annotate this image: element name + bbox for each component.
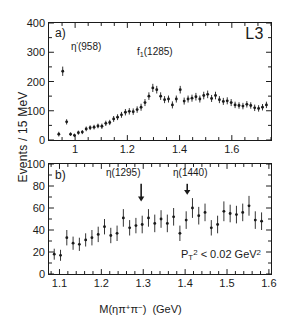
x-tick-label: 1.4 — [160, 143, 200, 155]
y-tick-label: 0 — [3, 134, 45, 146]
data-series — [57, 67, 268, 137]
x-axis-title: M(ηπ+π−) (GeV) — [0, 303, 281, 315]
panel-b-low-pt-sample: b) η(1295) η(1440) PT2 < 0.02 GeV2 02040… — [48, 163, 272, 275]
x-tick-label: 1.2 — [81, 277, 121, 289]
y-tick-label: 100 — [3, 158, 45, 170]
y-tick-label: 80 — [3, 180, 45, 192]
y-tick-label: 60 — [3, 202, 45, 214]
x-tick-label: 1.1 — [39, 277, 79, 289]
x-tick-label: 1.2 — [107, 143, 147, 155]
annotation-arrow-icon — [184, 184, 190, 195]
y-tick-label: 100 — [3, 105, 45, 117]
y-tick-label: 40 — [3, 224, 45, 236]
x-tick-label: 1.6 — [249, 277, 281, 289]
y-tick-label: 300 — [3, 46, 45, 58]
y-tick-label: 200 — [3, 76, 45, 88]
panel-a-full-sample: a) L3 η′(958) f1(1285) 010020030040011.2… — [48, 22, 272, 141]
annotation-arrow-icon — [138, 184, 144, 202]
panel-b-plot-area — [49, 164, 271, 274]
panel-a-plot-area — [49, 23, 271, 140]
x-tick-label: 1 — [55, 143, 95, 155]
y-tick-label: 400 — [3, 17, 45, 29]
data-series — [53, 196, 263, 261]
x-tick-label: 1.4 — [165, 277, 205, 289]
x-tick-label: 1.6 — [212, 143, 252, 155]
x-tick-label: 1.3 — [123, 277, 163, 289]
y-tick-label: 20 — [3, 246, 45, 258]
x-tick-label: 1.5 — [207, 277, 247, 289]
figure-root: Events / 15 MeV a) L3 η′(958) f1(1285) 0… — [0, 0, 281, 324]
